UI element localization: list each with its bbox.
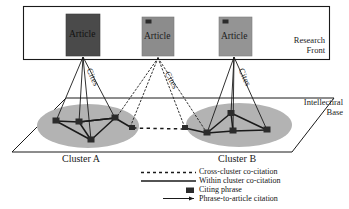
citation-diagram: Article Article Article Research Front I… (0, 0, 349, 209)
citing-phrase-node (112, 115, 119, 121)
article-label-3: Article (221, 32, 247, 42)
citing-phrase-node (88, 137, 95, 143)
citing-phrase-node (230, 128, 237, 134)
diagram-canvas (0, 0, 349, 209)
legend-label-phrase-to-article: Phrase-to-article citation (199, 195, 278, 203)
article-label-2: Article (144, 32, 170, 42)
cluster-b-label: Cluster B (218, 154, 256, 165)
citing-phrase-node (204, 130, 211, 136)
cross-cluster-cocitation-link (133, 128, 184, 129)
cluster-a-label: Cluster A (62, 154, 100, 165)
legend-arrow-symbol (163, 197, 194, 201)
citing-phrase-node (228, 110, 235, 116)
citing-phrase-node (182, 125, 188, 130)
research-front-label: Research Front (294, 36, 325, 56)
citing-phrase-node (76, 119, 83, 125)
intellectual-base-label: Intellectiral Base (304, 98, 343, 118)
citing-phrase-node (53, 118, 60, 124)
citing-phrase-node (264, 127, 271, 133)
article-label-1: Article (69, 30, 95, 40)
citing-phrase-icon-2 (146, 20, 152, 24)
citing-phrase-icon-3 (223, 20, 229, 24)
legend-square-symbol (186, 188, 194, 194)
citing-phrase-node (129, 125, 135, 130)
